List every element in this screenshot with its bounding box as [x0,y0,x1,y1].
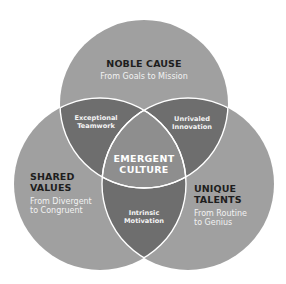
shared-values-subtitle-line2: to Congruent [30,206,110,215]
unrivaled-innovation-line1: Unrivaled [162,115,222,123]
noble-cause-label: NOBLE CAUSE From Goals to Mission [84,59,204,81]
venn-diagram [0,0,286,284]
shared-values-title-line2: VALUES [30,183,110,194]
emergent-culture-line2: CULTURE [104,165,184,176]
emergent-culture-label: EMERGENT CULTURE [104,154,184,176]
noble-cause-subtitle: From Goals to Mission [84,72,204,81]
exceptional-teamwork-line2: Teamwork [66,122,126,130]
intrinsic-motivation-line2: Motivation [114,217,174,225]
exceptional-teamwork-line1: Exceptional [66,114,126,122]
unique-talents-label: UNIQUE TALENTS From Routine to Genius [194,184,274,227]
unique-talents-subtitle-line1: From Routine [194,209,274,218]
unique-talents-subtitle-line2: to Genius [194,218,274,227]
shared-values-label: SHARED VALUES From Divergent to Congruen… [30,172,110,215]
exceptional-teamwork-label: Exceptional Teamwork [66,114,126,130]
unrivaled-innovation-line2: Innovation [162,123,222,131]
unrivaled-innovation-label: Unrivaled Innovation [162,115,222,131]
unique-talents-title-line2: TALENTS [194,195,274,206]
noble-cause-title: NOBLE CAUSE [84,59,204,70]
shared-values-subtitle-line1: From Divergent [30,197,110,206]
intrinsic-motivation-line1: Intrinsic [114,209,174,217]
intrinsic-motivation-label: Intrinsic Motivation [114,209,174,225]
